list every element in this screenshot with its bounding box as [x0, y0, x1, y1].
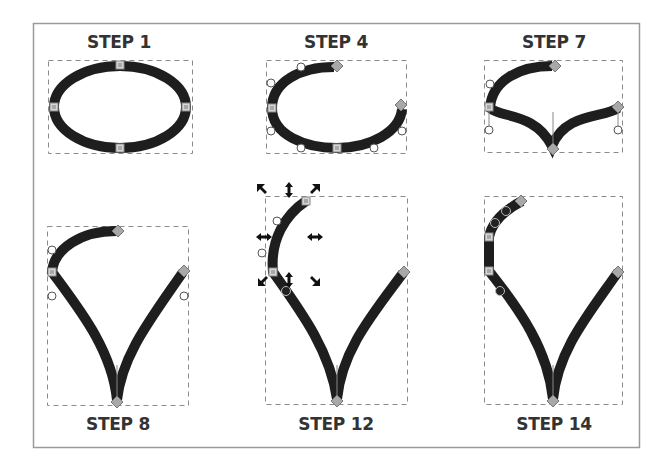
selected-node[interactable] — [302, 197, 310, 205]
scale-nw-arrow-icon[interactable] — [257, 184, 267, 194]
control-handle[interactable] — [502, 207, 511, 216]
node-left[interactable] — [50, 103, 58, 111]
node[interactable] — [485, 267, 493, 275]
node-left[interactable] — [268, 104, 276, 112]
step-12-figure — [256, 182, 410, 407]
control-handle[interactable] — [48, 246, 56, 254]
control-handle[interactable] — [398, 127, 406, 135]
scale-sw-arrow-icon[interactable] — [258, 276, 268, 286]
step-14-figure — [485, 195, 625, 407]
selected-node[interactable] — [269, 268, 277, 276]
control-handle[interactable] — [180, 292, 188, 300]
control-handle[interactable] — [48, 292, 56, 300]
control-handle[interactable] — [297, 63, 305, 71]
node[interactable] — [485, 233, 493, 241]
open-path — [272, 67, 402, 148]
node-left[interactable] — [485, 103, 493, 111]
teardrop-path — [273, 201, 403, 399]
open-path — [490, 66, 618, 146]
scale-e-arrow-icon[interactable] — [307, 233, 323, 241]
control-handle[interactable] — [297, 144, 305, 152]
control-handle[interactable] — [267, 127, 275, 135]
control-handle[interactable] — [282, 287, 291, 296]
node-left[interactable] — [48, 268, 56, 276]
control-handle[interactable] — [496, 287, 505, 296]
control-handle[interactable] — [273, 217, 281, 225]
control-handle[interactable] — [370, 144, 378, 152]
step-14-label: STEP 14 — [474, 414, 634, 434]
control-handle[interactable] — [485, 126, 493, 134]
control-handle[interactable] — [258, 249, 266, 257]
node-right[interactable] — [182, 103, 190, 111]
scale-ne-arrow-icon[interactable] — [310, 184, 320, 194]
scale-se-arrow-icon[interactable] — [310, 276, 320, 286]
step-1-label: STEP 1 — [39, 32, 199, 52]
control-handle[interactable] — [267, 79, 275, 87]
control-handle[interactable] — [486, 80, 494, 88]
step-7-figure — [485, 60, 625, 155]
control-handle[interactable] — [491, 219, 500, 228]
node-top[interactable] — [116, 61, 124, 69]
diagram-canvas — [0, 0, 671, 472]
scale-n-arrow-icon[interactable] — [285, 182, 293, 198]
step-4-label: STEP 4 — [256, 32, 416, 52]
step-8-figure — [48, 225, 191, 408]
control-handle[interactable] — [614, 126, 622, 134]
node-bottom[interactable] — [333, 144, 341, 152]
step-7-label: STEP 7 — [474, 32, 634, 52]
step-12-label: STEP 12 — [256, 414, 416, 434]
scale-w-arrow-icon[interactable] — [256, 233, 272, 241]
end-node-right[interactable] — [395, 99, 407, 111]
step-4-figure — [267, 60, 408, 154]
ellipse-path — [54, 66, 186, 148]
node-bottom[interactable] — [116, 144, 124, 152]
step-1-figure — [49, 61, 193, 154]
step-8-label: STEP 8 — [38, 414, 198, 434]
